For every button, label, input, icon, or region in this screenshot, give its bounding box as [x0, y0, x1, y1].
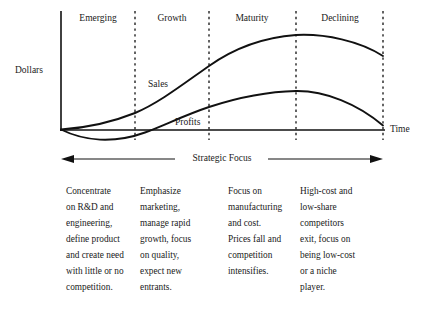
description-line: manage rapid — [140, 215, 214, 231]
stage-label-emerging: Emerging — [79, 13, 116, 24]
description-line: exit, focus on — [300, 231, 380, 247]
x-axis-label: Time — [390, 124, 410, 135]
description-line: entrants. — [140, 279, 214, 295]
description-line: player. — [300, 279, 380, 295]
description-column-growth: Emphasize marketing, manage rapid growth… — [140, 183, 214, 295]
description-line: and cost. — [228, 215, 302, 231]
description-line: competition — [228, 247, 302, 263]
description-line: marketing, — [140, 199, 214, 215]
description-column-declining: High-cost and low-share competitors exit… — [300, 183, 380, 295]
description-line: being low-cost — [300, 247, 380, 263]
description-line: Concentrate — [66, 183, 140, 199]
description-line: define product — [66, 231, 140, 247]
focus-arrow-left-head — [61, 155, 74, 163]
description-line: Focus on — [228, 183, 302, 199]
description-line: manufacturing — [228, 199, 302, 215]
description-line: Emphasize — [140, 183, 214, 199]
description-line: with little or no — [66, 263, 140, 279]
product-life-cycle-diagram: Dollars Time Emerging Growth Maturity De… — [0, 0, 439, 326]
description-line: competition. — [66, 279, 140, 295]
profits-curve — [61, 91, 383, 140]
description-line: on quality, — [140, 247, 214, 263]
stage-label-maturity: Maturity — [235, 13, 268, 24]
description-line: low-share — [300, 199, 380, 215]
stage-label-growth: Growth — [157, 13, 186, 24]
description-column-emerging: Concentrate on R&D and engineering, defi… — [66, 183, 140, 295]
description-line: growth, focus — [140, 231, 214, 247]
description-line: or a niche — [300, 263, 380, 279]
focus-arrow-right-head — [370, 155, 383, 163]
description-line: on R&D and — [66, 199, 140, 215]
stage-label-declining: Declining — [321, 13, 358, 24]
description-line: competitors — [300, 215, 380, 231]
strategic-focus-label: Strategic Focus — [193, 153, 252, 164]
sales-curve-label: Sales — [148, 79, 168, 90]
description-line: engineering, — [66, 215, 140, 231]
description-line: intensifies. — [228, 263, 302, 279]
description-line: expect new — [140, 263, 214, 279]
y-axis-label: Dollars — [15, 65, 43, 76]
description-line: High-cost and — [300, 183, 380, 199]
stage-description-columns: Concentrate on R&D and engineering, defi… — [0, 183, 439, 326]
description-column-maturity: Focus on manufacturing and cost. Prices … — [228, 183, 302, 279]
description-line: and create need — [66, 247, 140, 263]
stage-divider-group — [135, 11, 383, 140]
profits-curve-label: Profits — [175, 117, 200, 128]
sales-curve — [61, 35, 383, 130]
description-line: Prices fall and — [228, 231, 302, 247]
